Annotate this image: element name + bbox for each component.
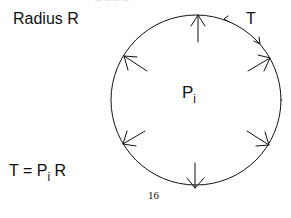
equation-lhs: T = P xyxy=(9,162,47,179)
internal-pressure-label: Pi xyxy=(182,83,196,106)
equation-rhs: R xyxy=(50,162,66,179)
pressure-arrow-upper-left-icon xyxy=(124,56,147,71)
circle-diagram xyxy=(0,0,291,218)
pressure-arrow-lower-right-icon xyxy=(247,131,269,146)
pressure-arrow-up-icon xyxy=(191,15,205,42)
pressure-arrow-lower-left-icon xyxy=(123,131,145,146)
tension-label: T xyxy=(246,10,256,28)
pressure-arrow-down-icon xyxy=(187,163,204,188)
pressure-arrow-upper-right-icon xyxy=(248,55,270,71)
tension-equation: T = Pi R xyxy=(9,162,66,184)
pressure-subscript: i xyxy=(193,92,196,106)
page-number: 16 xyxy=(148,189,159,201)
pressure-tension-diagram: ... ... ... ... Radius R xyxy=(0,0,291,218)
pressure-symbol: P xyxy=(182,83,193,102)
